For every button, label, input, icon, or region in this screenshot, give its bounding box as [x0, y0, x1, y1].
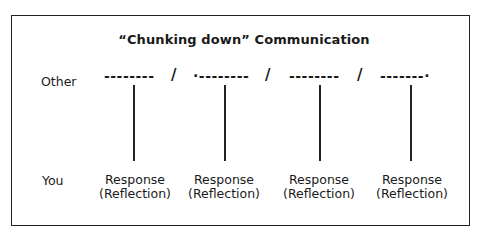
response-title: Response	[274, 173, 364, 187]
connector-line-1	[133, 85, 135, 161]
response-label-4: Response (Reflection)	[367, 173, 457, 201]
other-segment-4: -------·	[380, 68, 430, 84]
response-label-1: Response (Reflection)	[90, 173, 180, 201]
separator-slash-3: /	[357, 66, 362, 84]
other-segment-3: --------	[289, 68, 339, 84]
connector-line-4	[410, 85, 412, 161]
response-label-2: Response (Reflection)	[179, 173, 269, 201]
connector-line-2	[224, 85, 226, 161]
separator-slash-2: /	[265, 66, 270, 84]
response-label-3: Response (Reflection)	[274, 173, 364, 201]
connector-line-3	[319, 85, 321, 161]
response-subtitle: (Reflection)	[367, 187, 457, 201]
other-row-label: Other	[41, 74, 77, 89]
other-segment-2: ·--------	[193, 68, 249, 84]
other-segment-1: --------	[104, 68, 154, 84]
response-subtitle: (Reflection)	[179, 187, 269, 201]
response-subtitle: (Reflection)	[274, 187, 364, 201]
response-subtitle: (Reflection)	[90, 187, 180, 201]
response-title: Response	[179, 173, 269, 187]
diagram-title: “Chunking down” Communication	[0, 32, 488, 47]
response-title: Response	[367, 173, 457, 187]
you-row-label: You	[42, 173, 64, 188]
response-title: Response	[90, 173, 180, 187]
separator-slash-1: /	[171, 66, 176, 84]
